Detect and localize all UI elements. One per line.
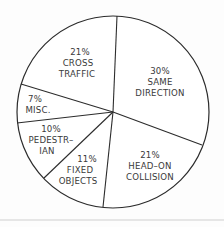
slice-label-line: CROSS: [63, 58, 94, 68]
slice-value: 10%: [41, 124, 61, 134]
slice-label-line: SAME: [147, 77, 172, 87]
slice-value: 21%: [140, 150, 160, 160]
slice-label-line: PEDESTR–: [28, 135, 73, 145]
slice-label-line: MISC.: [25, 105, 50, 115]
slice-label-line: COLLISION: [126, 172, 174, 182]
slice-value: 21%: [70, 47, 90, 57]
slice-value: 30%: [150, 66, 170, 76]
slice-label-line: OBJECTS: [59, 176, 98, 186]
slice-label-line: IAN: [39, 146, 54, 156]
pie-chart: 30% SAME DIRECTION 21% HEAD–ON COLLISION…: [0, 0, 224, 227]
slice-label-line: DIRECTION: [135, 88, 184, 98]
slice-value: 7%: [28, 94, 42, 104]
slice-label-line: TRAFFIC: [58, 69, 96, 79]
slice-label-line: HEAD–ON: [128, 161, 171, 171]
slice-label-line: FIXED: [67, 165, 94, 175]
slice-value: 11%: [77, 154, 97, 164]
